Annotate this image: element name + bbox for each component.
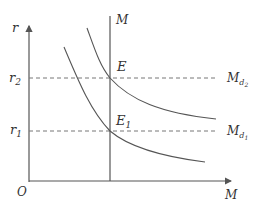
interest-level-r1: r1: [10, 122, 218, 139]
r2-label: r2: [9, 70, 21, 87]
x-axis: M O: [17, 181, 238, 202]
demand-curve-md1: Md1: [64, 47, 248, 162]
interest-level-r2: r2: [9, 70, 218, 87]
equilibrium-e1-label: E1: [115, 113, 131, 130]
x-axis-label: M: [224, 188, 238, 202]
money-market-diagram: r M O M r2 r1: [0, 0, 254, 211]
y-axis-label: r: [12, 20, 19, 35]
r1-label: r1: [10, 122, 22, 139]
y-axis: r: [12, 20, 29, 182]
origin-label: O: [17, 185, 27, 199]
md1-label: Md1: [226, 124, 248, 141]
money-supply-label: M: [115, 13, 129, 27]
money-supply-line: M: [110, 13, 129, 181]
demand-curve-md2: Md2: [87, 28, 248, 119]
equilibrium-e-label: E: [116, 59, 127, 74]
md2-label: Md2: [226, 71, 248, 88]
